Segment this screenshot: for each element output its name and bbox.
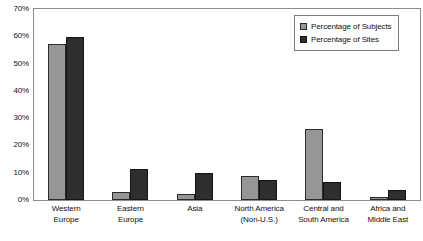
bar-subjects <box>241 176 259 200</box>
bar-sites <box>323 182 341 200</box>
x-axis-label-line: Middle East <box>356 214 420 225</box>
y-axis-tick: 10% <box>14 169 29 177</box>
y-axis-tick: 40% <box>14 87 29 95</box>
bar-sites <box>259 180 277 200</box>
x-axis-label: EasternEurope <box>98 203 162 225</box>
chart-legend: Percentage of SubjectsPercentage of Site… <box>294 15 399 51</box>
y-axis-tick: 70% <box>14 5 29 13</box>
x-axis-label-line: Central and <box>291 203 355 214</box>
bar-group <box>227 9 291 200</box>
legend-item[interactable]: Percentage of Subjects <box>300 20 392 33</box>
y-axis-tick: 60% <box>14 32 29 40</box>
legend-swatch-sites-icon <box>300 36 307 43</box>
bar-sites <box>66 37 84 200</box>
bar-group <box>98 9 162 200</box>
x-axis-label: WesternEurope <box>34 203 98 225</box>
bar-chart: 70%60%50%40%30%20%10%0% WesternEuropeEas… <box>0 0 423 241</box>
x-axis-label-line: Europe <box>34 214 98 225</box>
legend-swatch-subjects-icon <box>300 23 307 30</box>
legend-item[interactable]: Percentage of Sites <box>300 33 392 46</box>
legend-label: Percentage of Sites <box>311 35 379 44</box>
bar-sites <box>388 190 406 200</box>
y-axis-tick: 50% <box>14 60 29 68</box>
bar-group <box>34 9 98 200</box>
x-axis-label: Asia <box>163 203 227 214</box>
x-axis-label: Africa andMiddle East <box>356 203 420 225</box>
x-axis-label-line: Africa and <box>356 203 420 214</box>
x-axis-label-line: Europe <box>98 214 162 225</box>
x-axis-label-line: Western <box>34 203 98 214</box>
bar-group <box>163 9 227 200</box>
x-axis-label-line: Asia <box>163 203 227 214</box>
x-axis-label-line: (Non-U.S.) <box>227 214 291 225</box>
bar-sites <box>195 173 213 200</box>
x-axis-label-line: North America <box>227 203 291 214</box>
x-axis-label: Central andSouth America <box>291 203 355 225</box>
x-axis-label: North America(Non-U.S.) <box>227 203 291 225</box>
y-axis-tick: 20% <box>14 141 29 149</box>
y-axis: 70%60%50%40%30%20%10%0% <box>0 0 33 209</box>
bar-subjects <box>112 192 130 200</box>
y-axis-tick: 0% <box>18 196 29 204</box>
bar-sites <box>130 169 148 200</box>
legend-label: Percentage of Subjects <box>311 22 392 31</box>
x-axis-labels: WesternEuropeEasternEuropeAsiaNorth Amer… <box>34 203 420 241</box>
x-axis-label-line: South America <box>291 214 355 225</box>
bar-subjects <box>370 197 388 200</box>
y-axis-tick: 30% <box>14 114 29 122</box>
bar-subjects <box>305 129 323 200</box>
bar-subjects <box>48 44 66 200</box>
x-axis-label-line: Eastern <box>98 203 162 214</box>
bar-subjects <box>177 194 195 200</box>
